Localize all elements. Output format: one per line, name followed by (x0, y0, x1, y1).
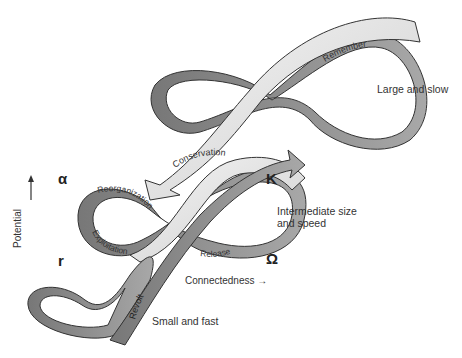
connectedness-text: Connectedness (185, 275, 255, 286)
diagram-graphics: Remember Reorganization Conservation Exp… (0, 0, 462, 358)
connectedness-axis-label: Connectedness → (185, 275, 267, 287)
intermediate-scale-label-1: Intermediate size (277, 205, 357, 217)
r-marker: r (58, 252, 64, 269)
connectedness-arrow-icon: → (257, 275, 267, 286)
small-scale-label: Small and fast (152, 315, 219, 327)
large-scale-label: Large and slow (377, 83, 448, 95)
panarchy-diagram: Remember Reorganization Conservation Exp… (0, 0, 462, 358)
potential-axis-label: Potential (12, 209, 23, 248)
omega-marker: Ω (266, 250, 278, 267)
alpha-marker: α (58, 170, 67, 187)
intermediate-scale-label-2: and speed (277, 217, 326, 229)
kappa-marker: K (266, 170, 277, 187)
